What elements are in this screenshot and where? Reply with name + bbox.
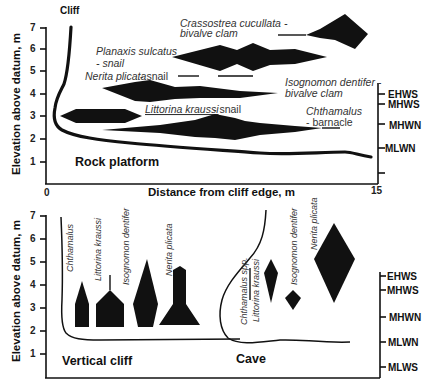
cave-species-labels: Chthamalus spp. Littorina kraussi Isogno… xyxy=(239,197,319,325)
cave-label-nerita: Nerita plicata xyxy=(309,197,319,250)
nerita-desc: - snail xyxy=(140,70,168,82)
tide-label-mhwn: MHWN xyxy=(389,312,421,323)
tide-label-mhws: MHWS xyxy=(388,99,420,110)
bottom-y-tick-label: 4 xyxy=(30,279,36,290)
bottom-y-tick-label: 2 xyxy=(30,325,36,336)
top-y-tick-label: 6 xyxy=(30,43,36,54)
nerita-name: Nerita plicata xyxy=(85,70,146,82)
planaxis-desc: - snail xyxy=(96,57,125,69)
region-label-vertical-cliff: Vertical cliff xyxy=(62,354,133,368)
tide-label-ehws: EHWS xyxy=(387,271,417,282)
cliff-label-chthamalus: Chthamalus xyxy=(65,223,75,272)
top-panel: 1 2 3 4 5 6 7 Elevation above datum, m 0… xyxy=(10,5,421,198)
bottom-y-axis-title: Elevation above datum, m xyxy=(10,220,22,362)
chthamalus-desc: - barnacle xyxy=(306,116,353,128)
cliff-littorina-range xyxy=(96,290,124,327)
cliff-label-isognomon: Isognomon dentifer xyxy=(121,207,131,285)
crassostrea-range xyxy=(306,14,368,49)
cave-isognomon-range xyxy=(285,290,301,310)
littorina-desc: - snail xyxy=(213,103,241,115)
tide-label-mlwn: MLWN xyxy=(385,143,416,154)
crassostrea-desc: bivalve clam xyxy=(180,27,238,39)
cliff-label: Cliff xyxy=(60,5,80,16)
region-label-rock-platform: Rock platform xyxy=(75,155,159,169)
region-label-cave: Cave xyxy=(236,352,266,366)
cave-label-littorina: Littorina kraussi xyxy=(251,258,261,322)
cliff-isognomon-range xyxy=(133,259,158,327)
cave-label-chthamalus: Chthamalus spp. xyxy=(239,257,249,325)
cliff-chthamalus-range xyxy=(75,281,89,327)
top-y-axis-title: Elevation above datum, m xyxy=(10,33,22,175)
cave-chthamalus-range xyxy=(264,259,278,303)
tide-label-mhwn: MHWN xyxy=(389,120,421,131)
bottom-y-tick-label: 1 xyxy=(30,348,36,359)
tide-label-mlws: MLWS xyxy=(388,362,418,373)
tide-label-mlwn: MLWN xyxy=(388,337,419,348)
cave-label-isognomon: Isognomon dentifer xyxy=(289,207,299,285)
planaxis-name: Planaxis sulcatus xyxy=(96,45,178,57)
bottom-y-tick-label: 5 xyxy=(30,256,36,267)
cave-nerita-range xyxy=(314,223,355,303)
top-x-tick-label: 0 xyxy=(44,187,50,198)
littorina-name: Littorina kraussi xyxy=(145,103,219,115)
tide-label-mhws: MHWS xyxy=(387,285,419,296)
cliff-species-labels: Chthamalus Littorina kraussi Isognomon d… xyxy=(65,207,174,285)
top-x-axis-title: Distance from cliff edge, m xyxy=(148,186,295,198)
top-y-tick-label: 7 xyxy=(30,22,36,33)
planaxis-range xyxy=(172,43,327,71)
littorina-label: Littorina kraussi - snail xyxy=(145,103,241,115)
top-x-tick-label: 15 xyxy=(371,185,383,196)
top-y-tick-label: 1 xyxy=(30,156,36,167)
bottom-y-ticks xyxy=(40,216,46,354)
top-y-tick-label: 5 xyxy=(30,65,36,76)
top-y-ticks xyxy=(40,28,46,162)
zonation-diagram: 1 2 3 4 5 6 7 Elevation above datum, m 0… xyxy=(0,0,430,391)
bottom-panel: 1 2 3 4 5 6 7 Elevation above datum, m E… xyxy=(10,197,421,378)
top-y-tick-label: 4 xyxy=(30,88,36,99)
littorina-range xyxy=(60,109,142,123)
top-y-tick-label: 3 xyxy=(30,110,36,121)
top-y-tick-label: 2 xyxy=(30,133,36,144)
cliff-label-littorina: Littorina kraussi xyxy=(93,217,103,281)
isognomon-desc: bivalve clam xyxy=(285,87,343,99)
bottom-y-tick-label: 6 xyxy=(30,233,36,244)
cliff-label-nerita: Nerita plicata xyxy=(164,223,174,276)
bottom-y-tick-label: 7 xyxy=(30,210,36,221)
nerita-label: Nerita plicata - snail xyxy=(85,70,168,82)
bottom-y-tick-label: 3 xyxy=(30,302,36,313)
isognomon-range xyxy=(102,80,278,102)
